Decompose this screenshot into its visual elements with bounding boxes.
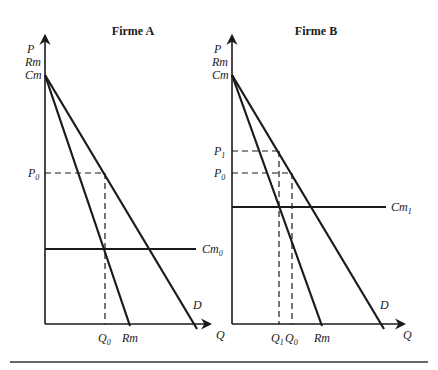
y-label-rm: Rm [24,55,41,69]
demand-curve [45,75,197,329]
cm0-label: Cm0 [202,242,223,258]
q0-label: Q0 [285,331,298,347]
x-label-q: Q [403,328,412,342]
y-label-p: P [26,42,35,56]
rm-label: Rm [313,331,330,345]
p0-label: P0 [27,166,39,182]
panel-firme-b: Firme B P Rm Cm P1 P0 Cm1 Q1 Q0 Rm D Q [211,24,412,347]
monopoly-diagram: Firme A P Rm Cm P0 Cm0 Q0 Rm D Q Firme B… [0,0,438,370]
y-label-cm: Cm [25,68,42,82]
q1-label: Q1 [271,331,284,347]
p1-label: P1 [213,144,225,160]
rm-curve [45,75,130,326]
q0-label: Q0 [98,331,111,347]
panel-firme-a: Firme A P Rm Cm P0 Cm0 Q0 Rm D Q [24,24,225,347]
panel-title: Firme B [295,24,337,38]
panel-title: Firme A [112,24,155,38]
y-label-cm: Cm [212,68,229,82]
y-label-p: P [213,42,222,56]
p0-label: P0 [213,166,225,182]
rm-label: Rm [121,331,138,345]
demand-curve [232,75,384,329]
y-label-rm: Rm [211,55,228,69]
rm-curve [232,75,322,326]
cm1-label: Cm1 [391,200,412,216]
d-label: D [379,298,389,312]
d-label: D [192,298,202,312]
x-label-q: Q [216,328,225,342]
